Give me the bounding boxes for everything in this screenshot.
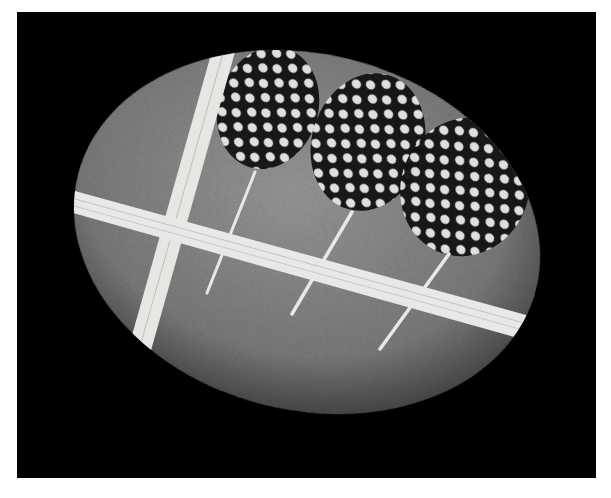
stone-photo (17, 12, 596, 478)
photo-frame (17, 12, 596, 478)
